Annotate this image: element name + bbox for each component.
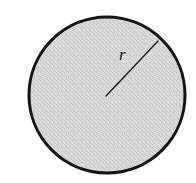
radius-label: r: [119, 46, 126, 63]
circle-diagram-canvas: [0, 0, 196, 183]
geometry-figure: r: [0, 0, 196, 183]
